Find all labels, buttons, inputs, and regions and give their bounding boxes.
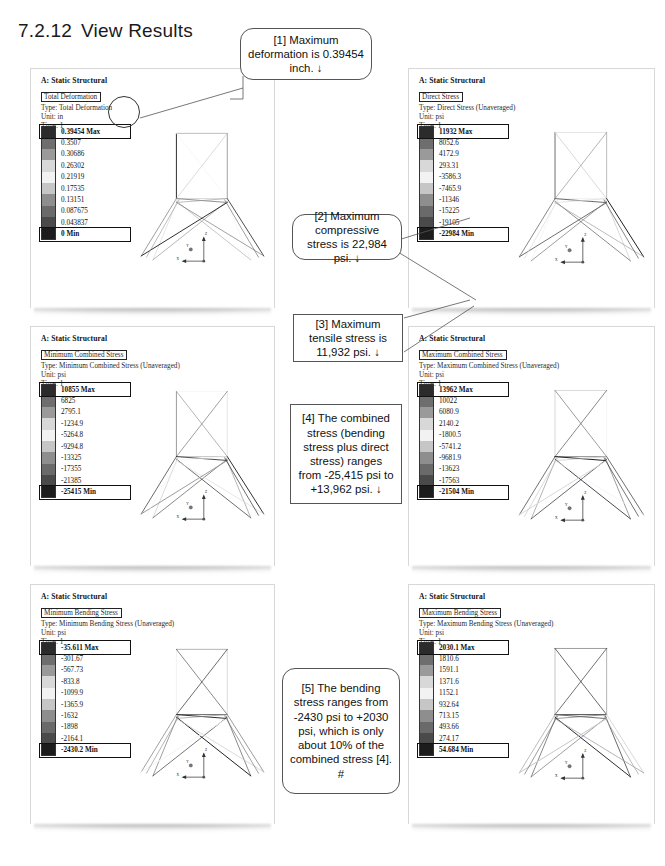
svg-text:Z: Z (584, 749, 586, 753)
legend-label: 1591.1 (439, 666, 459, 674)
legend-label: 932.64 (439, 701, 459, 709)
legend-label: 0.043837 (61, 219, 88, 227)
legend-label: 0.17535 (61, 185, 84, 193)
legend-swatch (41, 137, 56, 148)
svg-text:Y: Y (565, 761, 568, 765)
legend-label: -17563 (439, 477, 459, 485)
legend-swatch (419, 733, 434, 744)
legend-label: -11346 (439, 196, 459, 204)
svg-text:Z: Z (584, 233, 586, 237)
result-panel-total-deformation: A: Static StructuralTotal DeformationTyp… (30, 68, 275, 308)
model-viewport-total-deformation[interactable]: ZXY (136, 87, 269, 301)
legend-minimum-combined-stress: 10855 Max68252795.1-1234.9-5264.8-9294.8… (41, 384, 96, 498)
panel-unit-line: Unit: in (41, 113, 112, 121)
legend-row: 6080.9 (419, 407, 474, 418)
page-title: 7.2.12View Results (18, 20, 193, 42)
legend-label: 10855 Max (61, 386, 95, 394)
legend-swatch (419, 160, 434, 171)
legend-row: 0.3507 (41, 137, 100, 148)
legend-row: 293.31 (419, 160, 474, 171)
legend-label: -13325 (61, 454, 81, 462)
legend-minimum-bending-stress: -35.611 Max-301.67-567.73-833.8-1099.9-1… (41, 642, 99, 756)
legend-swatch (419, 395, 434, 406)
legend-swatch (41, 430, 56, 441)
legend-label: 11932 Max (439, 128, 472, 136)
legend-swatch (41, 464, 56, 475)
legend-swatch (41, 452, 56, 463)
legend-row: -13623 (419, 464, 474, 475)
legend-swatch (41, 183, 56, 194)
legend-swatch (41, 475, 56, 486)
legend-row: -567.73 (41, 665, 99, 676)
legend-label: 2030.1 Max (439, 644, 475, 652)
svg-text:X: X (555, 258, 558, 262)
legend-row: 10855 Max (41, 384, 96, 395)
section-number: 7.2.12 (18, 20, 72, 41)
legend-swatch (419, 486, 434, 498)
legend-swatch (41, 160, 56, 171)
svg-text:X: X (176, 515, 179, 519)
legend-swatch (41, 653, 56, 664)
legend-label: 1152.1 (439, 689, 459, 697)
legend-row: 0.17535 (41, 183, 100, 194)
legend-swatch (41, 418, 56, 429)
svg-text:Z: Z (205, 490, 207, 494)
legend-swatch (41, 395, 56, 406)
svg-text:Y: Y (186, 760, 189, 764)
legend-label: -21385 (61, 477, 81, 485)
panel-title: A: Static Structural (419, 334, 559, 343)
legend-swatch (419, 464, 434, 475)
panel-result-label: Minimum Combined Stress (41, 350, 127, 360)
legend-label: -567.73 (61, 666, 83, 674)
legend-swatch (419, 665, 434, 676)
legend-row: 2795.1 (41, 407, 96, 418)
legend-row: 0.26302 (41, 160, 100, 171)
svg-text:X: X (555, 774, 558, 778)
legend-row: 4172.9 (419, 149, 474, 160)
legend-swatch (41, 172, 56, 183)
legend-swatch (419, 407, 434, 418)
legend-label: -17355 (61, 465, 81, 473)
legend-row: -1365.9 (41, 699, 99, 710)
model-viewport-minimum-combined-stress[interactable]: ZXY (136, 345, 269, 559)
legend-total-deformation: 0.39454 Max0.35070.306860.263020.219190.… (41, 126, 100, 240)
legend-swatch (419, 699, 434, 710)
svg-text:Y: Y (565, 503, 568, 507)
legend-row: 2140.2 (419, 418, 474, 429)
legend-swatch (419, 206, 434, 217)
model-viewport-maximum-bending-stress[interactable]: ZXY (514, 603, 649, 817)
legend-row: -1099.9 (41, 688, 99, 699)
panel-unit-line: Unit: psi (419, 113, 515, 121)
legend-swatch (41, 217, 56, 228)
legend-row: -15225 (419, 206, 474, 217)
svg-text:Z: Z (205, 232, 207, 236)
section-title: View Results (81, 20, 193, 41)
legend-swatch (41, 699, 56, 710)
legend-swatch (41, 407, 56, 418)
legend-row: 713.15 (419, 710, 475, 721)
legend-swatch (419, 418, 434, 429)
panel-title: A: Static Structural (419, 592, 553, 601)
panel-result-label: Maximum Combined Stress (419, 350, 507, 360)
legend-direct-stress: 11932 Max8052.64172.9293.31-3586.3-7465.… (419, 126, 474, 240)
legend-label: -1365.9 (61, 701, 83, 709)
legend-label: -5264.8 (61, 431, 83, 439)
panel-title: A: Static Structural (41, 334, 180, 343)
legend-label: 10022 (439, 397, 457, 405)
legend-swatch (419, 149, 434, 160)
legend-swatch (419, 172, 434, 183)
model-viewport-minimum-bending-stress[interactable]: ZXY (136, 603, 269, 817)
panel-result-label: Total Deformation (41, 92, 101, 102)
legend-label: -25415 Min (61, 488, 96, 496)
legend-row: 493.66 (419, 722, 475, 733)
legend-swatch (419, 183, 434, 194)
legend-maximum-combined-stress: 13962 Max100226080.92140.2-1800.5-5741.2… (419, 384, 474, 498)
legend-swatch (419, 676, 434, 687)
legend-swatch (419, 710, 434, 721)
legend-swatch (419, 653, 434, 664)
model-viewport-maximum-combined-stress[interactable]: ZXY (514, 345, 649, 559)
legend-row: -19105 (419, 217, 474, 228)
legend-row: 6825 (41, 395, 96, 406)
model-viewport-direct-stress[interactable]: ZXY (514, 87, 649, 301)
legend-row: -21504 Min (419, 487, 474, 498)
